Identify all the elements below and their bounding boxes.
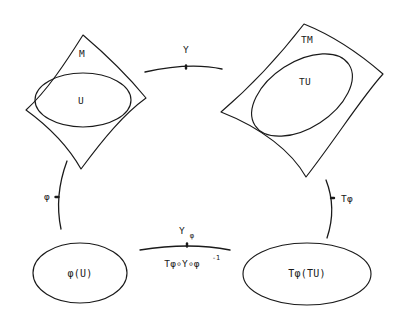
diagram-canvas: M U TM TU φ(U) Tφ(TU) Y bbox=[0, 0, 407, 331]
arrow-bottom-curve bbox=[140, 246, 230, 250]
node-tangent-bundle-tm: TM TU bbox=[221, 24, 383, 177]
commutative-diagram: M U TM TU φ(U) Tφ(TU) Y bbox=[0, 0, 407, 331]
arrow-bottom-label-main: Y bbox=[179, 225, 185, 236]
arrow-top-curve bbox=[145, 66, 222, 72]
arrow-right-tphi: Tφ bbox=[326, 180, 353, 238]
node-chart-image-phi-u: φ(U) bbox=[33, 243, 127, 303]
chart-image-tphi-tu-label: Tφ(TU) bbox=[288, 268, 325, 279]
arrow-top-label: Y bbox=[183, 44, 189, 55]
chart-image-phi-u-label: φ(U) bbox=[68, 268, 93, 279]
arrow-bottom-label-subscript: φ bbox=[190, 231, 195, 240]
arrow-right-curve bbox=[326, 180, 332, 238]
arrow-bottom-composite-exponent: -1 bbox=[212, 254, 220, 262]
arrow-bottom-y-phi: Y φ Tφ∘Y∘φ -1 bbox=[140, 225, 230, 269]
tangent-set-tu-outline bbox=[237, 37, 367, 153]
tangent-bundle-tm-label: TM bbox=[301, 34, 313, 45]
tangent-set-tu-label: TU bbox=[299, 76, 311, 87]
arrow-top-y: Y bbox=[145, 44, 222, 73]
arrow-bottom-composite-base: Tφ∘Y∘φ bbox=[164, 258, 200, 269]
node-manifold-m: M U bbox=[26, 35, 146, 169]
manifold-m-outline bbox=[26, 35, 146, 169]
arrow-left-curve bbox=[59, 161, 67, 229]
open-set-u-label: U bbox=[78, 95, 84, 106]
tangent-bundle-tm-outline bbox=[221, 24, 383, 177]
node-chart-image-tphi-tu: Tφ(TU) bbox=[243, 243, 371, 305]
manifold-m-label: M bbox=[79, 48, 85, 59]
arrow-right-label: Tφ bbox=[341, 193, 353, 204]
arrow-left-phi: φ bbox=[44, 161, 67, 229]
arrow-left-label: φ bbox=[44, 191, 50, 202]
